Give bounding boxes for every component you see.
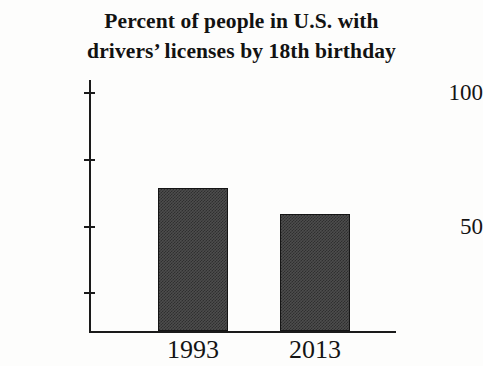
y-tick-label-50: 50 (399, 215, 483, 238)
y-tick-label-100: 100 (399, 81, 483, 104)
y-tick-25 (84, 292, 95, 294)
y-tick-100 (84, 92, 95, 94)
y-axis-line (89, 80, 91, 333)
plot-area: 100 50 1993 2013 (0, 0, 483, 366)
x-tick-label-2013: 2013 (255, 337, 375, 363)
bar-2013 (280, 214, 350, 331)
y-tick-75 (84, 159, 95, 161)
x-axis-line (89, 331, 396, 333)
chart-figure: Percent of people in U.S. with drivers’ … (0, 0, 483, 366)
x-tick-label-1993: 1993 (133, 337, 253, 363)
y-tick-50 (84, 226, 95, 228)
bar-1993 (158, 188, 228, 331)
